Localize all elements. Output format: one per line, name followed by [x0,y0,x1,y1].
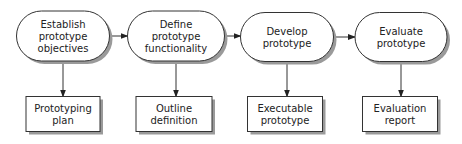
output-node-o3: Executableprototype [248,97,326,135]
process-node-p4: Evaluateprototype [355,13,450,65]
process-node-p3: Developprototype [241,13,337,65]
node-label-line: prototype [377,38,426,49]
process-node-p2: Defineprototypefunctionality [128,11,228,64]
node-label-line: Prototyping [34,103,92,114]
node-label-line: prototype [261,115,310,126]
output-node-o1: Prototypingplan [26,97,103,135]
node-label-line: Establish [40,19,85,30]
node-label-line: definition [150,115,197,126]
output-node-o4: Evaluationreport [363,97,441,135]
node-label-line: prototype [39,31,88,42]
node-label-line: Evaluation [374,103,427,114]
node-label-line: functionality [145,43,207,54]
node-label-line: Define [160,19,193,30]
node-label-line: objectives [38,43,89,54]
node-label-line: Evaluate [379,26,423,37]
edges-layer [63,36,401,97]
node-label-line: prototype [263,38,312,49]
node-label-line: Outline [156,103,192,114]
node-label-line: Develop [266,26,307,37]
node-label-line: plan [52,115,74,126]
node-label-line: prototype [152,31,201,42]
output-node-o2: Outlinedefinition [136,97,215,135]
node-label-line: report [385,115,416,126]
process-node-p1: Establishprototypeobjectives [17,11,113,64]
node-label-line: Executable [257,103,312,114]
prototyping-process-diagram: EstablishprototypeobjectivesDefineprotot… [0,0,462,144]
nodes-layer: EstablishprototypeobjectivesDefineprotot… [17,11,451,135]
